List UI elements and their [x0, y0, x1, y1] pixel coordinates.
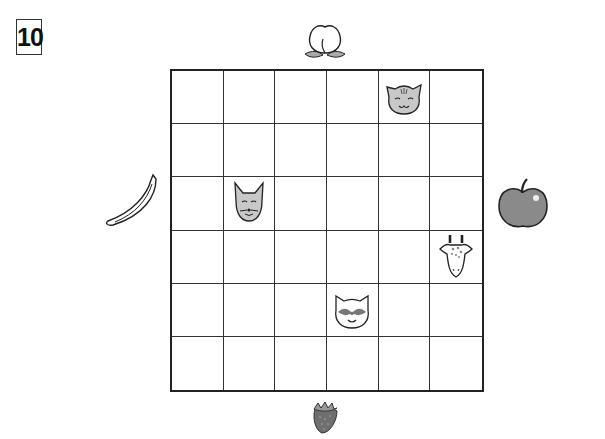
grid-cell — [172, 284, 224, 337]
grid-cell — [379, 124, 431, 177]
grid-cell — [379, 231, 431, 284]
grid-cell — [224, 284, 276, 337]
grid-cell — [379, 71, 431, 124]
fox-icon — [232, 181, 266, 225]
grid-cell — [379, 177, 431, 230]
grid-cell — [224, 177, 276, 230]
grid-cell — [275, 177, 327, 230]
grid-cell — [327, 71, 379, 124]
apple-icon — [496, 177, 550, 231]
grid-cell — [275, 124, 327, 177]
grid-cell — [430, 337, 482, 390]
grid-cell — [430, 177, 482, 230]
grid-cell — [430, 71, 482, 124]
banana-icon — [103, 170, 159, 230]
grid-cell — [172, 337, 224, 390]
grid-cell — [430, 124, 482, 177]
grid-cell — [430, 284, 482, 337]
grid-cell — [224, 337, 276, 390]
raccoon-icon — [330, 290, 374, 330]
grid-cell — [327, 337, 379, 390]
grid-cell — [327, 284, 379, 337]
grid-cell — [172, 71, 224, 124]
grid-cell — [430, 231, 482, 284]
grid-cell — [172, 177, 224, 230]
peach-icon — [302, 16, 348, 62]
grid-cell — [224, 231, 276, 284]
strawberry-icon — [310, 399, 340, 435]
grid-cell — [379, 337, 431, 390]
grid-cell — [172, 124, 224, 177]
giraffe-icon — [436, 233, 476, 281]
grid-cell — [327, 231, 379, 284]
puzzle-number: 10 — [16, 19, 42, 55]
grid-cell — [172, 231, 224, 284]
cat-icon — [383, 79, 425, 115]
grid-cell — [327, 124, 379, 177]
puzzle-grid — [170, 69, 484, 392]
grid-cell — [224, 71, 276, 124]
grid-cell — [379, 284, 431, 337]
grid-cell — [224, 124, 276, 177]
grid-cell — [275, 337, 327, 390]
grid-cell — [327, 177, 379, 230]
grid-cell — [275, 231, 327, 284]
grid-cell — [275, 71, 327, 124]
grid-cell — [275, 284, 327, 337]
